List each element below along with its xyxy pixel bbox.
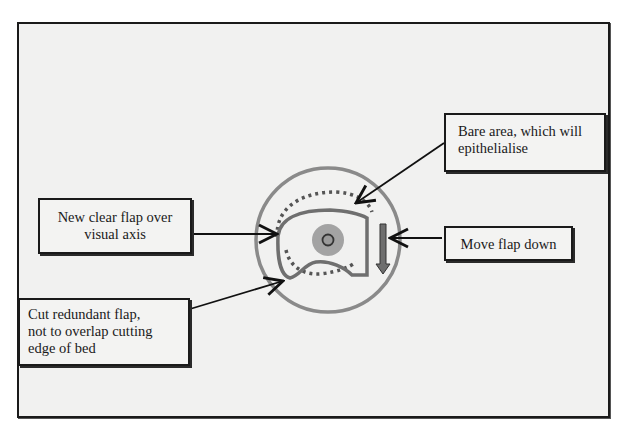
label-bare-area-line-2: epithelialise [458, 140, 592, 157]
pupil-center [323, 235, 334, 246]
label-bare-area-line-1: Bare area, which will [458, 123, 592, 140]
label-new-clear-flap-line-1: New clear flap over [50, 209, 180, 226]
label-cut-redundant-flap: Cut redundant flap, not to overlap cutti… [18, 298, 190, 366]
label-bare-area: Bare area, which will epithelialise [444, 113, 606, 172]
move-down-arrow-icon [376, 224, 390, 274]
callout-bare-area [356, 143, 444, 203]
label-new-clear-flap-line-2: visual axis [50, 226, 180, 243]
label-cut-redundant-flap-line-1: Cut redundant flap, [28, 306, 180, 323]
label-move-flap-down: Move flap down [444, 226, 573, 261]
label-move-flap-down-line-1: Move flap down [456, 236, 561, 253]
label-cut-redundant-flap-line-2: not to overlap cutting [28, 323, 180, 340]
callout-cut-flap [190, 281, 283, 309]
label-cut-redundant-flap-line-3: edge of bed [28, 340, 180, 357]
label-new-clear-flap: New clear flap over visual axis [38, 198, 192, 254]
